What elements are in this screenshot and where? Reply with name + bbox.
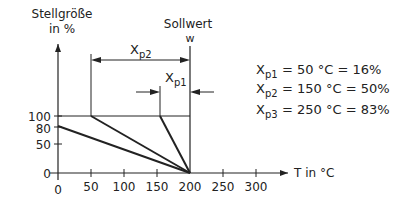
svg-text:X: X (256, 81, 265, 96)
svg-text:X: X (130, 42, 139, 57)
svg-text:300: 300 (245, 180, 268, 194)
equation-xp3: X p3 = 250 °C = 83% (256, 102, 390, 120)
y-axis-title-line1: Stellgröße (32, 7, 93, 21)
svg-text:= 50 °C = 16%: = 50 °C = 16% (282, 62, 381, 77)
svg-text:X: X (256, 62, 265, 77)
svg-text:p3: p3 (265, 109, 278, 120)
svg-text:0: 0 (54, 183, 62, 197)
controller-diagram: Stellgröße in % Sollwert w T in °C X p2 … (0, 0, 413, 204)
svg-text:X: X (165, 70, 174, 85)
svg-text:50: 50 (36, 138, 51, 152)
xp1-arrow-right-icon (190, 89, 200, 95)
y-tick-labels: 100 80 50 0 (28, 110, 51, 181)
svg-text:150: 150 (146, 180, 169, 194)
setpoint-symbol: w (186, 32, 195, 45)
xp2-arrow-left-icon (91, 57, 101, 63)
svg-text:250: 250 (212, 180, 235, 194)
svg-text:= 150 °C = 50%: = 150 °C = 50% (282, 81, 390, 96)
svg-text:p1: p1 (174, 77, 187, 88)
svg-text:200: 200 (179, 180, 202, 194)
svg-text:p1: p1 (265, 69, 278, 80)
x-axis-title: T in °C (293, 166, 334, 180)
xp2-dimension-label: X p2 (130, 42, 152, 60)
svg-text:100: 100 (113, 180, 136, 194)
svg-text:p2: p2 (265, 88, 278, 99)
svg-text:80: 80 (36, 122, 51, 136)
xp1-dimension-label: X p1 (165, 70, 187, 88)
svg-text:X: X (256, 102, 265, 117)
xp1-arrow-left-icon (150, 89, 160, 95)
svg-text:50: 50 (83, 180, 98, 194)
equation-xp2: X p2 = 150 °C = 50% (256, 81, 390, 99)
setpoint-label: Sollwert (164, 17, 213, 31)
series-xp3 (58, 126, 190, 173)
svg-text:0: 0 (43, 167, 51, 181)
svg-text:= 250 °C = 83%: = 250 °C = 83% (282, 102, 390, 117)
equation-xp1: X p1 = 50 °C = 16% (256, 62, 381, 80)
svg-text:p2: p2 (139, 49, 152, 60)
xp2-arrow-right-icon (180, 57, 190, 63)
x-tick-labels: 0 50 100 150 200 250 300 (54, 180, 267, 197)
y-axis-title-line2: in % (49, 22, 75, 36)
diagram-canvas: Stellgröße in % Sollwert w T in °C X p2 … (0, 0, 413, 204)
